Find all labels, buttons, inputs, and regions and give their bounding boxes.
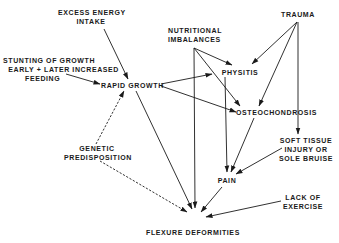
node-pain-label: PAIN [218,177,237,184]
node-osteochondrosis-label: OSTEOCHONDROSIS [236,109,317,116]
node-nutritional-line1: NUTRITIONAL [168,26,224,35]
node-rapid-growth: RAPID GROWTH [101,81,161,90]
edge-genetic-to-rapid [96,91,124,144]
node-lack-exercise: LACK OF EXERCISE [282,193,324,211]
node-soft-tissue: SOFT TISSUE INJURY OR SOLE BRUISE [278,136,334,163]
edge-softtissue-to-pain [236,148,282,174]
node-excess-energy: EXCESS ENERGY INTAKE [58,8,124,26]
edge-rapid-to-osteo [161,86,236,112]
node-nutritional-line2: IMBALANCES [168,35,224,44]
node-physitis: PHYSITIS [220,68,260,77]
edge-physitis-to-pain [225,77,227,172]
node-soft-tissue-line1: SOFT TISSUE [278,136,334,145]
node-rapid-growth-label: RAPID GROWTH [101,82,164,89]
edge-nutri-to-osteo [194,48,240,106]
edge-rapid-to-flexure [136,91,192,209]
edge-trauma-to-osteo [259,22,297,106]
node-flexure-deformities: FLEXURE DEFORMITIES [140,228,246,237]
node-stunting: STUNTING OF GROWTH EARLY + LATER INCREAS… [3,56,119,83]
node-nutritional: NUTRITIONAL IMBALANCES [168,26,224,44]
edge-pain-to-flexure [201,187,222,212]
node-lack-exercise-line1: LACK OF [282,193,324,202]
node-physitis-label: PHYSITIS [222,69,259,76]
node-excess-energy-line2: INTAKE [58,17,124,26]
edge-nutri-to-physitis [194,48,232,65]
edge-exercise-to-flexure [206,201,281,217]
node-trauma-label: TRAUMA [281,11,315,18]
edge-nutri-to-flexure [194,48,195,208]
node-soft-tissue-line3: SOLE BRUISE [278,154,334,163]
node-stunting-line1: STUNTING OF GROWTH [3,56,119,65]
node-osteochondrosis: OSTEOCHONDROSIS [236,108,314,117]
node-stunting-line2: EARLY + LATER INCREASED [3,65,119,74]
node-soft-tissue-line2: INJURY OR [278,145,334,154]
node-trauma: TRAUMA [280,10,316,19]
edge-genetic-to-flexure [100,161,187,212]
edge-osteo-to-pain [231,118,254,172]
node-genetic: GENETIC PREDISPOSITION [64,144,130,162]
node-flexure-deformities-label: FLEXURE DEFORMITIES [146,229,240,236]
edge-trauma-to-physitis [252,22,297,64]
node-genetic-line1: GENETIC [64,144,130,153]
edge-rapid-to-physitis [161,74,212,84]
node-pain: PAIN [214,176,240,185]
node-genetic-line2: PREDISPOSITION [64,153,130,162]
node-excess-energy-line1: EXCESS ENERGY [58,8,124,17]
node-lack-exercise-line2: EXERCISE [282,202,324,211]
